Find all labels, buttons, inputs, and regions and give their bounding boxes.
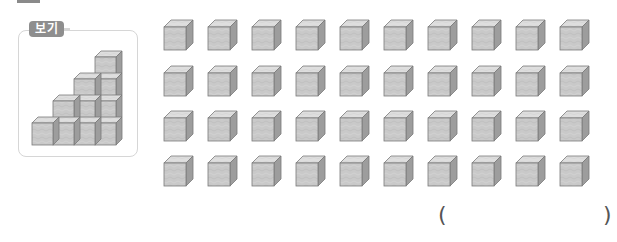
grid-cube (208, 66, 237, 96)
grid-cube (428, 66, 457, 96)
grid-cube (560, 66, 589, 96)
grid-cube (208, 156, 237, 186)
grid-cube (296, 20, 325, 50)
close-paren: ) (603, 202, 612, 228)
grid-cube (472, 20, 501, 50)
grid-cube (560, 20, 589, 50)
grid-cube (428, 156, 457, 186)
grid-cube (472, 111, 501, 141)
grid-cube (164, 111, 193, 141)
grid-cube (516, 20, 545, 50)
grid-cube (428, 111, 457, 141)
grid-cube (516, 111, 545, 141)
grid-cube (164, 156, 193, 186)
grid-cube (252, 111, 281, 141)
grid-cube (340, 111, 369, 141)
cube-grid (164, 20, 589, 186)
grid-cube (340, 20, 369, 50)
grid-cube (164, 66, 193, 96)
grid-cube (252, 66, 281, 96)
grid-cube (384, 66, 413, 96)
grid-cube (560, 111, 589, 141)
grid-cube (384, 111, 413, 141)
grid-cube (208, 111, 237, 141)
grid-cube (340, 156, 369, 186)
grid-cube (384, 20, 413, 50)
grid-cube (384, 156, 413, 186)
grid-cube (252, 20, 281, 50)
grid-cube (516, 66, 545, 96)
grid-cube (472, 156, 501, 186)
grid-cube (296, 111, 325, 141)
grid-cube (516, 156, 545, 186)
grid-cube (208, 20, 237, 50)
example-staircase (32, 51, 122, 145)
staircase-cube (32, 117, 59, 145)
grid-cube (296, 66, 325, 96)
grid-cube (164, 20, 193, 50)
grid-cube (428, 20, 457, 50)
grid-cube (560, 156, 589, 186)
grid-cube (252, 156, 281, 186)
answer-blank[interactable] (455, 204, 603, 228)
open-paren: ( (438, 202, 447, 228)
grid-cube (296, 156, 325, 186)
grid-cube (340, 66, 369, 96)
grid-cube (472, 66, 501, 96)
